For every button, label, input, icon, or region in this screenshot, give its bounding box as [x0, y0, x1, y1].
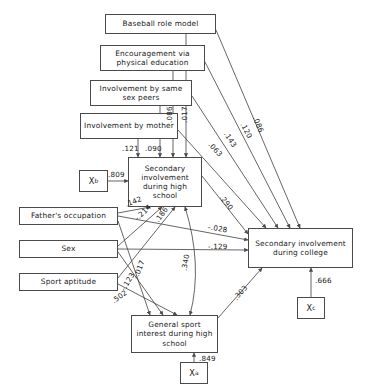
node-fathers-occupation: Father's occupation — [19, 207, 118, 225]
residual-subscript: b — [94, 178, 98, 184]
edge-label-129-sex-college: -.129 — [208, 242, 228, 251]
edge-label-121-mother-hs: .121 — [122, 144, 139, 153]
node-residual-xb: Xb — [79, 170, 108, 192]
node-label: Secondary involvement during high school — [131, 164, 199, 200]
node-label: Sport aptitude — [41, 277, 96, 286]
edge-label-086-encouragement-hs: .086 — [165, 106, 174, 123]
node-label: Secondary involvement during college — [251, 239, 350, 257]
node-residual-xc: Xc — [297, 297, 325, 319]
node-involvement-same-sex-peers: Involvement by same sex peers — [90, 80, 192, 106]
edge-label-849-xa-gsi: .849 — [199, 354, 216, 363]
node-residual-xa: Xa — [180, 362, 208, 384]
edge-peers-to-college — [192, 96, 278, 228]
residual-subscript: c — [312, 305, 315, 311]
path-diagram: Baseball role model Encouragement via ph… — [0, 0, 367, 390]
node-label: General sport interest during high schoo… — [134, 320, 215, 347]
node-encouragement-physical-education: Encouragement via physical education — [100, 45, 205, 71]
node-label: Baseball role model — [123, 19, 199, 28]
node-general-sport-interest-high-school: General sport interest during high schoo… — [131, 315, 218, 353]
node-sex: Sex — [19, 240, 118, 258]
edge-label-090-peers-hs: .090 — [145, 144, 162, 153]
node-label: Father's occupation — [31, 211, 106, 220]
node-label: Sex — [62, 244, 76, 253]
edge-label-017-baseball-hs: .017 — [180, 106, 189, 123]
edge-label-809-xb-hs: .809 — [108, 170, 125, 179]
node-label: Encouragement via physical education — [103, 49, 202, 67]
edge-label-666-xc-college: .666 — [315, 276, 332, 285]
node-label: Involvement by mother — [84, 121, 174, 130]
residual-subscript: a — [195, 370, 199, 376]
edge-sex-to-college — [118, 249, 248, 250]
node-sport-aptitude: Sport aptitude — [19, 273, 118, 291]
node-secondary-involvement-college: Secondary involvement during college — [248, 228, 353, 268]
node-baseball-role-model: Baseball role model — [105, 14, 216, 34]
node-involvement-by-mother: Involvement by mother — [80, 113, 178, 139]
node-label: Involvement by same sex peers — [93, 84, 189, 102]
